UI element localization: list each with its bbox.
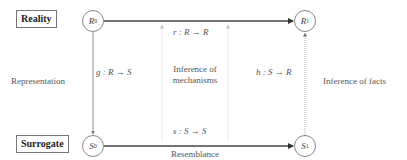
node-r1: R1 [294, 10, 316, 32]
node-s1: S1 [294, 135, 316, 157]
node-r0: R0 [82, 10, 104, 32]
inference-mechanisms-line1: Inference of [163, 64, 227, 74]
inference-facts-label: Inference of facts [323, 76, 386, 86]
surrogate-label: Surrogate [16, 135, 69, 153]
node-r0-sub: 0 [94, 18, 97, 24]
resemblance-label: Resemblance [160, 149, 230, 159]
inference-mechanisms-line2: mechanisms [163, 75, 227, 85]
node-r1-sub: 1 [306, 18, 309, 24]
reality-label: Reality [16, 10, 57, 28]
map-h-label: h : S → R [256, 67, 292, 77]
map-r-label: r : R → R [173, 27, 209, 37]
node-s0: S0 [82, 135, 104, 157]
map-g-label: g : R → S [96, 67, 132, 77]
node-s0-sub: 0 [94, 143, 97, 149]
node-s1-sub: 1 [306, 143, 309, 149]
representation-label: Representation [11, 76, 65, 86]
map-s-label: s : S → S [173, 126, 207, 136]
